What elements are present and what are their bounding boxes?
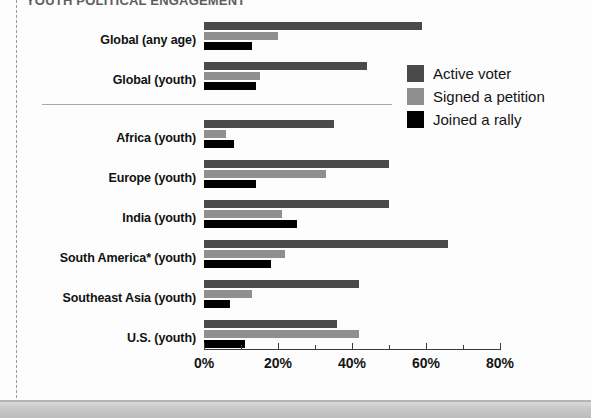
- x-axis-minor-tick: [463, 345, 464, 350]
- legend-item-joined-a-rally: Joined a rally: [407, 108, 545, 131]
- category-label: India (youth): [0, 211, 196, 225]
- category-label: Southeast Asia (youth): [0, 291, 196, 305]
- category-label: U.S. (youth): [0, 331, 196, 345]
- x-axis-tick-label: 0%: [194, 355, 214, 371]
- bar: [204, 250, 285, 258]
- x-axis-minor-tick: [389, 345, 390, 350]
- bar: [204, 340, 245, 348]
- bar: [204, 22, 422, 30]
- bar: [204, 42, 252, 50]
- bar-group: [204, 240, 448, 270]
- bar-group: [204, 160, 389, 190]
- bar: [204, 260, 271, 268]
- bar-group: [204, 280, 359, 310]
- bar-group: [204, 62, 367, 92]
- bar: [204, 120, 334, 128]
- x-axis-tick-label: 60%: [412, 355, 440, 371]
- x-axis-tick: [352, 343, 353, 350]
- x-axis-minor-tick: [315, 345, 316, 350]
- legend-item-active-voter: Active voter: [407, 62, 545, 85]
- bar-group: [204, 120, 334, 150]
- category-label: Global (any age): [0, 33, 196, 47]
- bar: [204, 200, 389, 208]
- bar: [204, 210, 282, 218]
- bar: [204, 330, 359, 338]
- bar-group: [204, 22, 422, 52]
- bar: [204, 240, 448, 248]
- bar: [204, 82, 256, 90]
- bar: [204, 160, 389, 168]
- bar: [204, 130, 226, 138]
- bar: [204, 300, 230, 308]
- x-axis-tick-label: 20%: [264, 355, 292, 371]
- bar: [204, 220, 297, 228]
- bar-group: [204, 320, 359, 350]
- legend-swatch-icon-signed-a-petition: [407, 88, 424, 105]
- category-label: Global (youth): [0, 73, 196, 87]
- group-separator-line: [42, 104, 392, 105]
- category-label: Europe (youth): [0, 171, 196, 185]
- x-axis-minor-tick: [241, 345, 242, 350]
- x-axis-tick-label: 40%: [338, 355, 366, 371]
- bar: [204, 290, 252, 298]
- bar-chart-plot-area: Global (any age)Global (youth)Africa (yo…: [0, 0, 591, 400]
- legend-swatch-icon-joined-a-rally: [407, 111, 424, 128]
- x-axis-tick: [426, 343, 427, 350]
- chart-legend: Active voter Signed a petition Joined a …: [407, 62, 545, 131]
- bar: [204, 170, 326, 178]
- x-axis-tick-label: 80%: [486, 355, 514, 371]
- x-axis-tick: [500, 343, 501, 350]
- bar: [204, 140, 234, 148]
- x-axis-tick: [278, 343, 279, 350]
- category-label: South America* (youth): [0, 251, 196, 265]
- legend-swatch-icon-active-voter: [407, 65, 424, 82]
- legend-item-signed-a-petition: Signed a petition: [407, 85, 545, 108]
- bar: [204, 72, 260, 80]
- legend-label-active-voter: Active voter: [433, 65, 511, 82]
- bar: [204, 280, 359, 288]
- bar: [204, 62, 367, 70]
- bar: [204, 320, 337, 328]
- chart-figure: YOUTH POLITICAL ENGAGEMENT Global (any a…: [0, 0, 591, 418]
- bar: [204, 32, 278, 40]
- legend-label-joined-a-rally: Joined a rally: [433, 111, 521, 128]
- bar: [204, 180, 256, 188]
- category-label: Africa (youth): [0, 131, 196, 145]
- x-axis-tick: [204, 343, 205, 350]
- legend-label-signed-a-petition: Signed a petition: [433, 88, 545, 105]
- bar-group: [204, 200, 389, 230]
- page-bottom-band: [0, 402, 591, 418]
